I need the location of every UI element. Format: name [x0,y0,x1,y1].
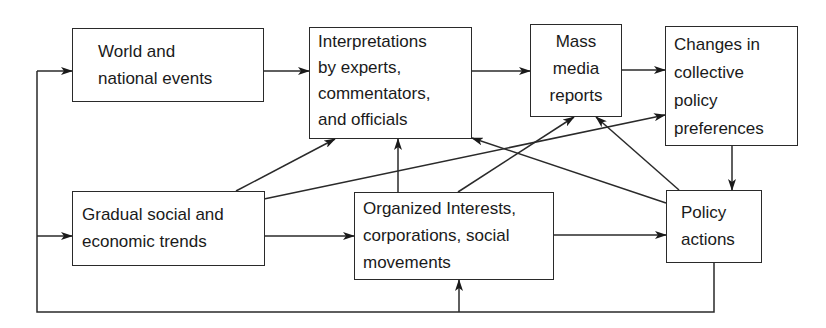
node-label-line: movements [363,249,553,276]
node-label-line: Interpretations [318,29,471,55]
node-interpretations: Interpretations by experts, commentators… [309,27,472,139]
node-organized-interests: Organized Interests, corporations, socia… [354,192,554,280]
node-changes-collective-preferences: Changes in collective policy preferences [665,26,798,146]
node-gradual-trends: Gradual social and economic trends [72,191,265,266]
node-label-line: Gradual social and [82,201,264,228]
node-label-line: national events [98,65,263,92]
node-label-line: policy [674,87,797,115]
node-label-line: reports [531,82,621,109]
node-world-national-events: World and national events [72,28,264,102]
node-mass-media-reports: Mass media reports [530,24,622,117]
node-label-line: media [531,55,621,82]
node-label-line: Organized Interests, [363,195,553,222]
node-label-line: and officials [318,107,471,133]
node-label-line: economic trends [82,228,264,255]
arrow-gradual-to-interpretations [236,139,335,191]
node-label-line: Policy [681,199,761,226]
node-label-line: collective [674,59,797,87]
node-policy-actions: Policy actions [666,190,762,263]
node-label-line: actions [681,226,761,253]
node-label-line: corporations, social [363,222,553,249]
node-label-line: World and [98,38,263,65]
node-label-line: commentators, [318,81,471,107]
node-label-line: Mass [531,28,621,55]
node-label-line: by experts, [318,55,471,81]
node-label-line: Changes in [674,31,797,59]
node-label-line: preferences [674,115,797,143]
